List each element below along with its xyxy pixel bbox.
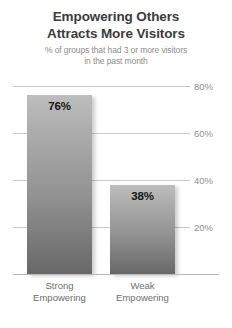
bar-weak-empowering[interactable]: 38% — [110, 185, 175, 274]
gridline-80 — [13, 86, 190, 87]
category-label-weak-empowering-line-2: Empowering — [90, 292, 195, 304]
plot-area: 80% 60% 40% 20% 76% 38% Strong Empowerin… — [0, 0, 232, 328]
bar-strong-empowering[interactable]: 76% — [27, 95, 92, 274]
category-label-weak-empowering-line-1: Weak — [90, 280, 195, 292]
category-label-weak-empowering: Weak Empowering — [90, 280, 195, 304]
y-tick-label-60: 60% — [194, 128, 213, 139]
y-tick-label-20: 20% — [194, 222, 213, 233]
bar-value-strong-empowering: 76% — [27, 100, 92, 112]
y-tick-label-80: 80% — [194, 81, 213, 92]
y-tick-label-40: 40% — [194, 175, 213, 186]
axis-baseline — [13, 274, 219, 275]
bar-value-weak-empowering: 38% — [110, 190, 175, 202]
bar-chart: Empowering Others Attracts More Visitors… — [0, 0, 232, 328]
